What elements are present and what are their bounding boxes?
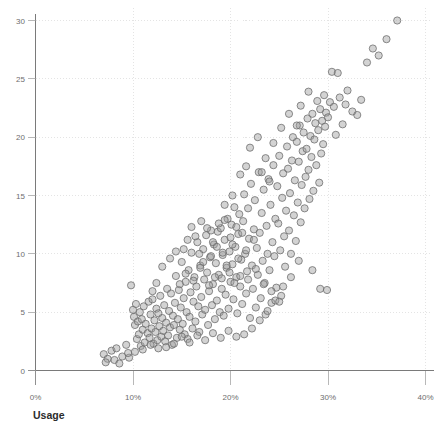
data-point: [155, 345, 162, 352]
data-point: [300, 129, 307, 136]
data-point: [315, 127, 322, 134]
data-point: [151, 317, 158, 324]
data-point: [233, 333, 240, 340]
data-point: [188, 223, 195, 230]
data-point: [293, 138, 300, 145]
data-point: [243, 268, 250, 275]
data-point: [248, 325, 255, 332]
data-point: [297, 102, 304, 109]
data-point: [192, 318, 199, 325]
data-point: [113, 345, 120, 352]
data-point: [268, 288, 275, 295]
x-tick-label: 20%: [222, 393, 238, 402]
x-tick-label: 10%: [125, 393, 141, 402]
data-point: [247, 180, 254, 187]
data-point: [252, 265, 259, 272]
data-point: [311, 136, 318, 143]
data-point: [229, 241, 236, 248]
data-point: [288, 157, 295, 164]
data-point: [243, 247, 250, 254]
data-point: [262, 155, 269, 162]
data-point: [283, 143, 290, 150]
data-point: [342, 101, 349, 108]
data-point: [284, 165, 291, 172]
data-point: [354, 111, 361, 118]
data-point: [236, 211, 243, 218]
data-point: [287, 250, 294, 257]
data-point: [313, 162, 320, 169]
data-point: [229, 192, 236, 199]
data-point: [125, 349, 132, 356]
data-point: [244, 205, 251, 212]
data-point: [167, 290, 174, 297]
data-point: [306, 195, 313, 202]
data-point: [207, 253, 214, 260]
data-point: [184, 236, 191, 243]
data-point: [316, 179, 323, 186]
y-tick-label: 25: [16, 75, 25, 84]
data-point: [339, 121, 346, 128]
data-point: [309, 267, 316, 274]
y-tick-label: 15: [16, 192, 25, 201]
data-point: [269, 239, 276, 246]
data-point: [294, 199, 301, 206]
data-point: [205, 282, 212, 289]
data-point: [323, 286, 330, 293]
data-point: [334, 69, 341, 76]
data-point: [234, 310, 241, 317]
data-point: [194, 332, 201, 339]
data-point: [286, 190, 293, 197]
data-point: [298, 181, 305, 188]
data-point: [123, 341, 130, 348]
data-point: [330, 103, 337, 110]
data-point: [270, 139, 277, 146]
data-point: [244, 276, 251, 283]
data-point: [201, 276, 208, 283]
data-point: [132, 300, 139, 307]
data-point: [260, 186, 267, 193]
data-point: [281, 233, 288, 240]
data-point: [317, 285, 324, 292]
data-point: [282, 263, 289, 270]
data-point: [188, 249, 195, 256]
data-point: [231, 204, 238, 211]
data-point: [225, 327, 232, 334]
data-point: [271, 253, 278, 260]
data-point: [280, 283, 287, 290]
data-point: [202, 306, 209, 313]
data-point: [116, 360, 123, 367]
data-point: [204, 225, 211, 232]
data-point: [213, 297, 220, 304]
data-point: [297, 219, 304, 226]
data-point: [218, 275, 225, 282]
data-point: [189, 325, 196, 332]
data-point: [258, 209, 265, 216]
data-point: [394, 17, 401, 24]
data-point: [256, 229, 263, 236]
data-point: [246, 144, 253, 151]
data-point: [217, 334, 224, 341]
data-point: [127, 282, 134, 289]
data-point: [318, 150, 325, 157]
y-tick-labels-group: 051015202530: [16, 17, 25, 376]
data-point: [170, 340, 177, 347]
data-point: [147, 341, 154, 348]
y-tick-label: 30: [16, 17, 25, 26]
data-point: [165, 332, 172, 339]
data-point: [220, 312, 227, 319]
data-point: [190, 277, 197, 284]
data-point: [179, 320, 186, 327]
data-point: [285, 110, 292, 117]
data-point: [321, 123, 328, 130]
data-point: [235, 255, 242, 262]
data-point: [305, 88, 312, 95]
data-point: [266, 267, 273, 274]
y-tick-label: 0: [21, 367, 26, 376]
data-point: [336, 94, 343, 101]
x-tick-labels-group: 0%10%20%30%40%: [30, 393, 434, 402]
data-point: [295, 257, 302, 264]
data-point: [222, 291, 229, 298]
data-point: [239, 300, 246, 307]
data-point: [321, 92, 328, 99]
data-point: [180, 295, 187, 302]
